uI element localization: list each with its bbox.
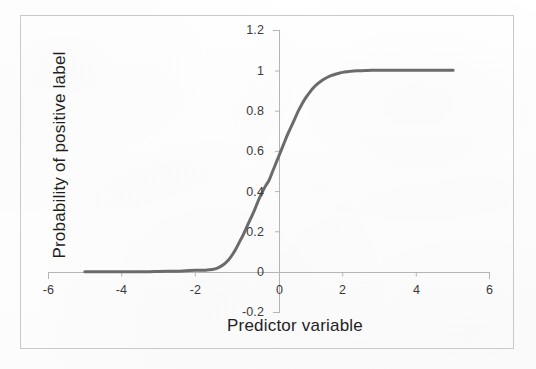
y-tick-label-0: 0 — [208, 265, 264, 279]
x-tick-label-2: 2 — [322, 283, 363, 297]
x-axis-title: Predictor variable — [150, 316, 440, 336]
x-tick-label-4: 4 — [396, 283, 437, 297]
x-tick-label-6: 6 — [469, 283, 510, 297]
x-tick-label-neg2: -2 — [175, 283, 216, 297]
logistic-curve — [85, 70, 453, 271]
y-tick-label-1.2: 1.2 — [208, 23, 264, 37]
chart-screenshot: 1.2 1 0.8 0.6 0.4 0.2 0 -0.2 -6 -4 -2 0 … — [0, 0, 536, 369]
y-tick-label-1: 1 — [208, 64, 264, 78]
y-axis-title: Probability of positive label — [50, 25, 70, 285]
y-tick-label-0.4: 0.4 — [208, 185, 264, 199]
y-tick-label-0.8: 0.8 — [208, 104, 264, 118]
x-tick-label-neg4: -4 — [101, 283, 142, 297]
x-tick-label-neg6: -6 — [28, 283, 69, 297]
y-tick-label-0.6: 0.6 — [208, 144, 264, 158]
y-tick-label-0.2: 0.2 — [208, 225, 264, 239]
x-tick-label-0: 0 — [259, 283, 300, 297]
plot-canvas — [0, 0, 536, 369]
